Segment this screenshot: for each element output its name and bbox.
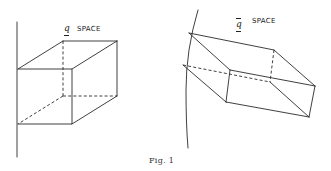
cube-front-face: [18, 69, 72, 124]
cube-edge: [72, 96, 117, 124]
qbar-symbol: q: [236, 20, 242, 29]
shape-edge: [270, 82, 309, 117]
shape-hidden-edge: [270, 50, 274, 82]
shape-edge: [274, 50, 315, 86]
shape-edge: [230, 70, 315, 86]
shape-edge: [309, 86, 315, 117]
right-space-label: SPACE: [252, 17, 276, 25]
q-symbol: q: [64, 24, 70, 33]
cube-edge: [18, 41, 63, 69]
shape-edge: [189, 33, 230, 70]
left-panel-q-space: [17, 22, 117, 157]
shape-edge: [226, 102, 309, 117]
cube-hidden-edge: [18, 96, 63, 124]
figure-1: q SPACE q SPACE Fig. 1: [0, 0, 331, 171]
right-panel-qbar-space: [183, 10, 315, 148]
qbar-underline: [236, 31, 241, 32]
shape-edge: [226, 70, 230, 102]
left-space-label: SPACE: [77, 25, 101, 33]
curved-boundary: [186, 10, 198, 148]
figure-caption: Fig. 1: [149, 156, 174, 165]
cube-edge: [72, 41, 117, 69]
shape-edge: [183, 65, 226, 102]
shape-hidden-edge: [183, 65, 270, 82]
figure-drawing: [0, 0, 331, 171]
shape-edge: [189, 33, 274, 50]
q-underline: [64, 35, 69, 36]
